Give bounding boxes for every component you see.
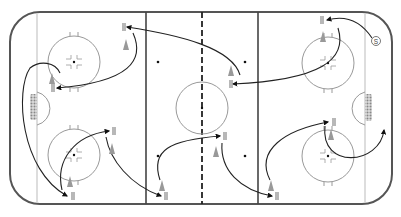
start-marker: S	[372, 37, 381, 46]
right-goal-net	[365, 94, 372, 121]
svg-text:S: S	[374, 38, 379, 45]
left-goal-net	[30, 94, 37, 120]
hockey-rink-diagram: S	[0, 0, 401, 217]
